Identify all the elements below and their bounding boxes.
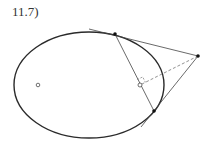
chord-of-contact bbox=[115, 34, 154, 111]
tangent-line-top bbox=[89, 29, 198, 56]
ellipse-tangent-diagram bbox=[0, 0, 216, 149]
tangent-point-top bbox=[113, 32, 117, 36]
chord-foot-point bbox=[138, 83, 142, 87]
tangent-point-bottom bbox=[152, 109, 156, 113]
external-point bbox=[196, 54, 200, 58]
dashed-perpendicular bbox=[140, 56, 198, 85]
figure-canvas: 11.7) bbox=[0, 0, 216, 149]
focus-point-left bbox=[36, 83, 40, 87]
tangent-line-bottom bbox=[141, 56, 198, 127]
